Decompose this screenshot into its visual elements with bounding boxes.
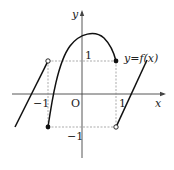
left-line <box>15 63 47 127</box>
tick-label-x-neg1: −1 <box>33 97 49 110</box>
function-curve <box>15 34 147 127</box>
open-point-1-neg1 <box>114 125 118 129</box>
origin-label: O <box>71 97 80 110</box>
tick-label-y-1: 1 <box>85 49 92 62</box>
filled-point-neg1-neg1 <box>46 125 51 130</box>
y-axis-label: y <box>71 8 79 21</box>
x-axis-arrow-icon <box>160 92 166 96</box>
open-point-neg1-1 <box>46 59 50 63</box>
right-line <box>117 60 147 125</box>
tick-label-y-neg1: −1 <box>67 130 83 143</box>
x-axis-label: x <box>155 97 162 110</box>
function-label: y=f(x) <box>123 52 158 65</box>
axes <box>12 10 166 158</box>
filled-point-1-1 <box>114 59 119 64</box>
labels: y x O −1 1 1 −1 y=f(x) <box>33 8 162 143</box>
tick-label-x-1: 1 <box>119 97 126 110</box>
function-graph: y x O −1 1 1 −1 y=f(x) <box>0 0 174 170</box>
y-axis-arrow-icon <box>80 10 84 16</box>
